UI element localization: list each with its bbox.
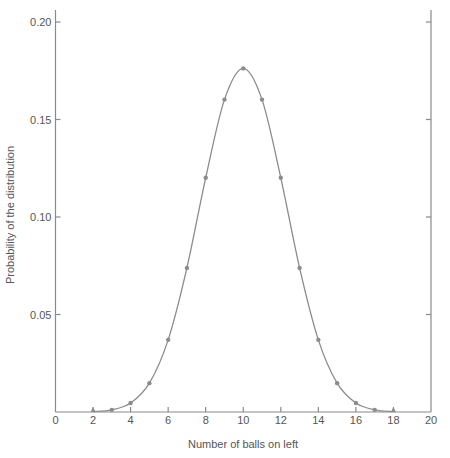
x-tick-label: 8 xyxy=(203,414,209,426)
x-tick-label: 20 xyxy=(425,414,437,426)
data-point xyxy=(297,266,301,270)
x-tick-label: 12 xyxy=(275,414,287,426)
data-point xyxy=(91,407,96,412)
data-point xyxy=(128,401,132,405)
x-tick-label: 6 xyxy=(165,414,171,426)
distribution-curve xyxy=(93,68,393,411)
data-point xyxy=(335,381,339,385)
y-tick-label: 0.15 xyxy=(30,114,51,126)
y-tick-label: 0.05 xyxy=(30,309,51,321)
x-tick-label: 18 xyxy=(387,414,399,426)
y-axis-ticks: 0.050.100.150.20 xyxy=(30,16,431,321)
y-tick-label: 0.20 xyxy=(30,16,51,28)
x-tick-label: 2 xyxy=(90,414,96,426)
data-point xyxy=(204,176,208,180)
x-tick-label: 10 xyxy=(237,414,249,426)
data-point xyxy=(354,401,358,405)
data-point-markers xyxy=(91,66,396,412)
chart: 02468101214161820 0.050.100.150.20 Numbe… xyxy=(0,0,450,458)
data-point xyxy=(166,338,170,342)
x-tick-label: 4 xyxy=(128,414,134,426)
data-point xyxy=(222,97,226,101)
y-tick-label: 0.10 xyxy=(30,211,51,223)
x-tick-label: 14 xyxy=(312,414,324,426)
x-axis-title: Number of balls on left xyxy=(188,438,298,450)
data-point xyxy=(372,408,376,412)
y-axis-title: Probability of the distribution xyxy=(4,146,16,284)
data-point xyxy=(391,407,396,412)
x-tick-label: 0 xyxy=(52,414,58,426)
data-point xyxy=(260,97,264,101)
data-point xyxy=(316,338,320,342)
x-tick-label: 16 xyxy=(350,414,362,426)
data-point xyxy=(241,66,245,70)
data-point xyxy=(147,381,151,385)
data-point xyxy=(185,266,189,270)
data-point xyxy=(279,176,283,180)
data-point xyxy=(110,408,114,412)
